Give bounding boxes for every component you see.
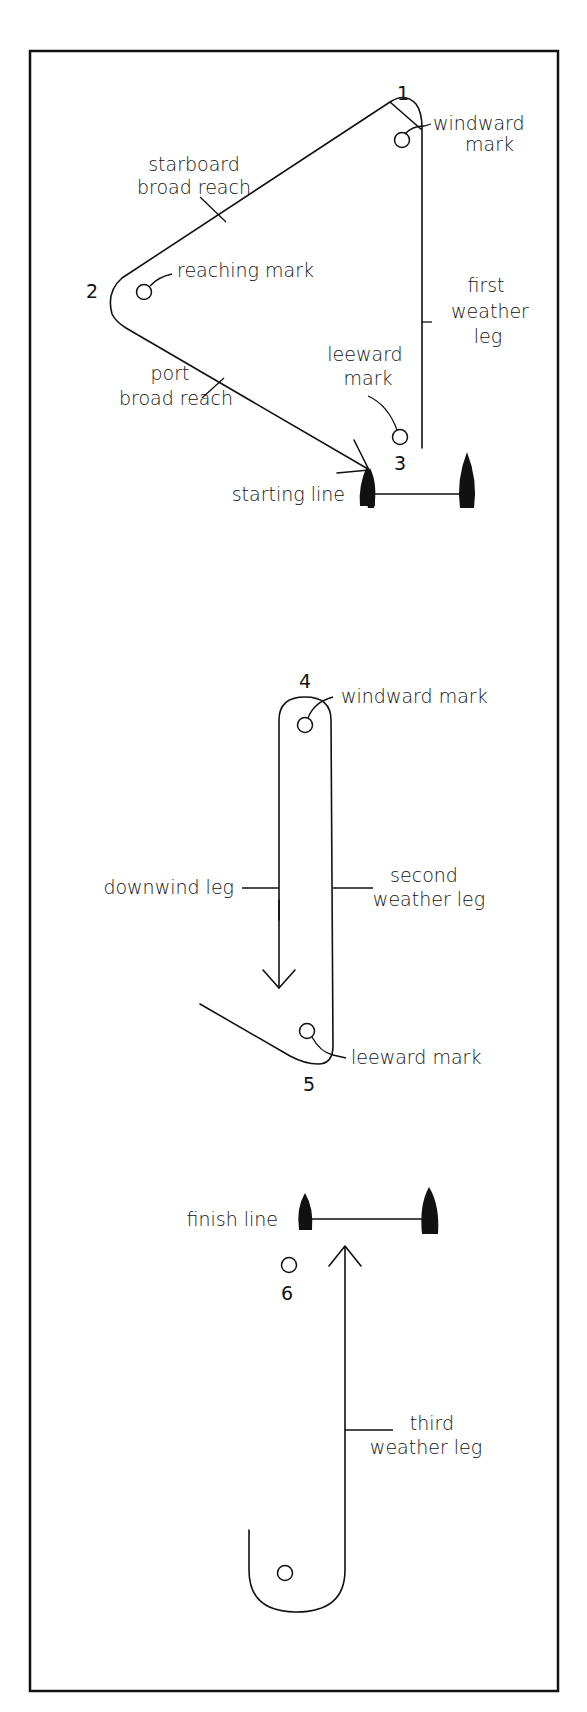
leeward-mark-5-icon <box>300 1024 315 1039</box>
downwind-leg-label: downwind leg <box>103 876 234 898</box>
triangle-course: 1 2 3 windward mark starboard broad reac… <box>86 82 529 508</box>
first-leg-label-2: weather <box>451 300 529 322</box>
reaching-mark-leader <box>150 274 172 286</box>
finish-boat-right-icon <box>421 1187 438 1234</box>
windward-mark-label-1: windward <box>433 112 525 134</box>
windward-mark-4-label: windward mark <box>341 685 488 707</box>
mark-number-5: 5 <box>303 1073 315 1095</box>
third-weather-leg-line <box>249 1247 345 1612</box>
race-course-diagram: 1 2 3 windward mark starboard broad reac… <box>0 0 587 1712</box>
mark-6-icon <box>282 1258 297 1273</box>
leeward-mark-5-leader <box>312 1037 346 1058</box>
finish-line-label: finish line <box>186 1208 278 1230</box>
starting-line-label: starting line <box>232 483 345 505</box>
leeward-mark-3-icon <box>393 430 408 445</box>
port-reach-arrow-icon <box>337 440 369 473</box>
windward-mark-1-icon <box>395 133 410 148</box>
start-boat-left-body-icon <box>360 466 375 506</box>
first-weather-leg-line <box>390 97 422 448</box>
starboard-label-1: starboard <box>148 153 240 175</box>
windward-leeward-course: 4 5 windward mark downwind leg second we… <box>103 670 487 1095</box>
first-leg-label-1: first <box>467 274 504 296</box>
second-leg-label-2: weather leg <box>373 888 485 910</box>
mark-number-4: 4 <box>299 670 311 692</box>
mark-number-6: 6 <box>281 1282 293 1304</box>
reaching-mark-label: reaching mark <box>177 259 314 281</box>
leeward-mark-label-2: mark <box>344 367 393 389</box>
first-leg-label-3: leg <box>474 325 502 347</box>
port-label-2: broad reach <box>119 387 233 409</box>
finish-boat-left-icon <box>298 1193 312 1230</box>
leeward-mark-5-label: leeward mark <box>351 1046 481 1068</box>
mark-number-3: 3 <box>394 452 406 474</box>
finish-course: 6 finish line third weather leg <box>186 1187 482 1612</box>
starboard-label-2: broad reach <box>137 176 251 198</box>
port-label-1: port <box>151 362 190 384</box>
windward-mark-4-icon <box>298 718 313 733</box>
bottom-mark-icon <box>278 1566 293 1581</box>
windward-mark-label-2: mark <box>465 133 514 155</box>
leeward-mark-leader <box>368 396 397 430</box>
reaching-mark-icon <box>137 285 152 300</box>
start-boat-right-icon <box>459 452 475 508</box>
mark-number-1: 1 <box>397 82 409 104</box>
third-leg-label-2: weather leg <box>370 1436 482 1458</box>
leeward-mark-label-1: leeward <box>327 343 402 365</box>
mark-number-2: 2 <box>86 280 98 302</box>
second-leg-label-1: second <box>390 864 458 886</box>
third-leg-label-1: third <box>410 1412 454 1434</box>
